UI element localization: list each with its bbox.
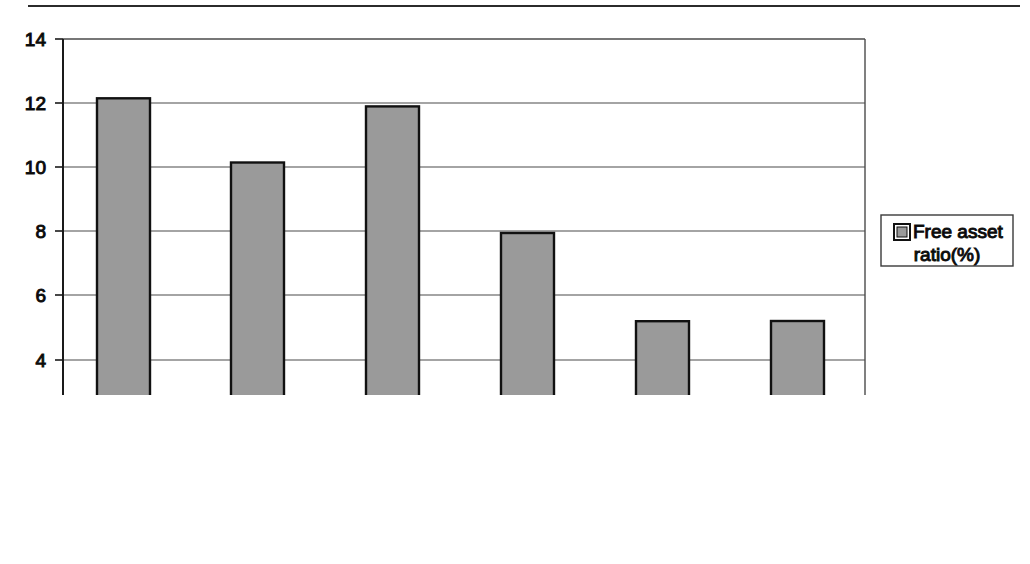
y-axis: 14 12 10 8 6 4 2 0 (25, 29, 63, 395)
bar-1999[interactable] (366, 106, 419, 394)
bar-2000[interactable] (501, 233, 554, 395)
y-tick-label-6: 6 (35, 285, 46, 306)
y-tick-label-14: 14 (25, 29, 47, 50)
bar-chart: 14 12 10 8 6 4 2 0 1997 1998 1999 2000 2… (0, 0, 1030, 395)
y-tick-label-12: 12 (25, 93, 46, 114)
legend-label-line2: ratio(%) (914, 244, 981, 265)
legend-label-line1: Free asset (913, 221, 1003, 242)
legend-swatch-icon (897, 227, 907, 237)
chart-page: 14 12 10 8 6 4 2 0 1997 1998 1999 2000 2… (0, 0, 1030, 564)
y-tick-label-10: 10 (25, 157, 46, 178)
bar-1998[interactable] (231, 163, 284, 395)
bar-1997[interactable] (97, 98, 150, 394)
bar-2002[interactable] (771, 321, 824, 395)
chart-legend[interactable]: Free asset ratio(%) (881, 215, 1013, 266)
bar-2001[interactable] (636, 321, 689, 394)
y-tick-label-4: 4 (35, 350, 46, 371)
plot-frame (63, 39, 865, 395)
bars-group (97, 98, 824, 394)
y-tick-label-8: 8 (35, 221, 46, 242)
gridlines (63, 103, 865, 395)
